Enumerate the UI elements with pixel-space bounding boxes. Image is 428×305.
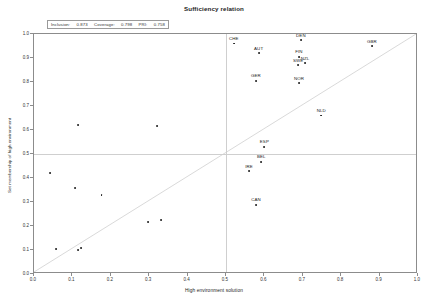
x-axis-tick xyxy=(225,273,226,276)
point-label-esp: ESP xyxy=(260,139,269,144)
point-label-nzl: NZL xyxy=(301,56,310,61)
data-point-swe xyxy=(297,64,299,66)
point-label-ire: IRE xyxy=(245,164,253,169)
data-point xyxy=(80,247,82,249)
x-axis-tick-label: 0.2 xyxy=(107,277,113,282)
y-axis-tick xyxy=(30,57,33,58)
x-axis-tick-label: 0.1 xyxy=(68,277,74,282)
y-axis-tick-label: 0.6 xyxy=(18,127,29,132)
x-axis-tick xyxy=(417,273,418,276)
y-axis-tick xyxy=(30,225,33,226)
inclusion-stat: Inclusion: 0.873 xyxy=(51,22,88,27)
inclusion-value: 0.873 xyxy=(76,22,87,27)
point-label-aut: AUT xyxy=(254,46,263,51)
data-point-nld xyxy=(320,115,322,117)
data-point-ger xyxy=(255,80,257,82)
x-axis-tick-label: 0.9 xyxy=(375,277,381,282)
data-point xyxy=(55,248,57,250)
horizontal-threshold-line xyxy=(34,154,416,155)
sufficiency-scatter-chart: Sufficiency relation Inclusion: 0.873 Co… xyxy=(0,0,428,305)
x-axis-tick xyxy=(33,273,34,276)
data-point-che xyxy=(233,43,235,45)
x-axis-tick xyxy=(71,273,72,276)
x-axis-tick-label: 0.3 xyxy=(145,277,151,282)
x-axis-tick xyxy=(148,273,149,276)
y-axis-tick xyxy=(30,177,33,178)
point-label-nld: NLD xyxy=(317,108,326,113)
data-point xyxy=(74,187,76,189)
coverage-stat: Coverage: 0.798 xyxy=(94,22,132,27)
data-point-gbr xyxy=(371,45,373,47)
y-axis-tick xyxy=(30,249,33,250)
inclusion-label: Inclusion: xyxy=(51,22,70,27)
y-axis-tick-label: 0.1 xyxy=(18,247,29,252)
pri-stat: PRI: 0.758 xyxy=(139,22,165,27)
data-point-nor xyxy=(298,82,300,84)
point-label-bel: BEL xyxy=(257,154,266,159)
y-axis-tick-label: 0.0 xyxy=(18,271,29,276)
point-label-ger: GER xyxy=(251,73,261,78)
y-axis-tick xyxy=(30,105,33,106)
x-axis-tick xyxy=(302,273,303,276)
data-point xyxy=(156,125,158,127)
plot-area: CHEAUTDENGBRFINSWENZLGERNORNLDESPBELIREC… xyxy=(34,34,416,272)
x-axis-tick-label: 0.5 xyxy=(222,277,228,282)
y-axis-tick-label: 0.5 xyxy=(18,151,29,156)
x-axis-title: High environment solution xyxy=(0,288,428,293)
y-axis-tick-label: 0.2 xyxy=(18,223,29,228)
data-point-bel xyxy=(260,161,262,163)
x-axis-tick xyxy=(379,273,380,276)
pri-label: PRI: xyxy=(139,22,148,27)
y-axis-tick-label: 0.9 xyxy=(18,55,29,60)
x-axis-tick-label: 0.6 xyxy=(260,277,266,282)
data-point-nzl xyxy=(304,62,306,64)
data-point-can xyxy=(255,204,257,206)
plot-panel: CHEAUTDENGBRFINSWENZLGERNORNLDESPBELIREC… xyxy=(33,33,417,273)
data-point xyxy=(77,124,79,126)
y-axis-tick-label: 1.0 xyxy=(18,31,29,36)
point-label-den: DEN xyxy=(296,34,306,38)
data-point-den xyxy=(300,39,302,41)
x-axis-tick-label: 0.7 xyxy=(299,277,305,282)
coverage-value: 0.798 xyxy=(121,22,132,27)
y-axis-tick xyxy=(30,153,33,154)
x-axis-tick xyxy=(187,273,188,276)
x-axis-tick xyxy=(263,273,264,276)
chart-title: Sufficiency relation xyxy=(0,5,428,12)
diagonal-reference-line xyxy=(34,34,416,272)
x-axis-tick-label: 1.0 xyxy=(414,277,420,282)
data-point-ire xyxy=(248,170,250,172)
coverage-label: Coverage: xyxy=(94,22,115,27)
x-axis-tick xyxy=(110,273,111,276)
vertical-threshold-line xyxy=(226,34,227,272)
y-axis-tick xyxy=(30,201,33,202)
x-axis-tick-label: 0.8 xyxy=(337,277,343,282)
y-axis-tick-label: 0.4 xyxy=(18,175,29,180)
x-axis-tick xyxy=(340,273,341,276)
y-axis-tick xyxy=(30,33,33,34)
y-axis-tick-label: 0.8 xyxy=(18,79,29,84)
data-point xyxy=(77,249,79,251)
y-axis-tick-label: 0.7 xyxy=(18,103,29,108)
x-axis-tick-label: 0.0 xyxy=(30,277,36,282)
y-axis-tick xyxy=(30,129,33,130)
y-axis-tick-label: 0.3 xyxy=(18,199,29,204)
y-axis-tick xyxy=(30,273,33,274)
data-point-esp xyxy=(263,146,265,148)
data-point xyxy=(49,172,51,174)
data-point xyxy=(147,221,149,223)
point-label-nor: NOR xyxy=(294,76,304,81)
point-label-gbr: GBR xyxy=(367,39,377,44)
point-label-fin: FIN xyxy=(295,49,302,54)
y-axis-tick xyxy=(30,81,33,82)
point-label-che: CHE xyxy=(229,36,239,41)
fit-statistics-box: Inclusion: 0.873 Coverage: 0.798 PRI: 0.… xyxy=(47,20,169,30)
data-point-aut xyxy=(258,52,260,54)
x-axis-tick-label: 0.4 xyxy=(183,277,189,282)
pri-value: 0.758 xyxy=(154,22,165,27)
y-axis-title: Set membership of high environment xyxy=(7,101,12,211)
data-point xyxy=(101,194,103,196)
data-point xyxy=(160,219,162,221)
point-label-can: CAN xyxy=(251,197,261,202)
